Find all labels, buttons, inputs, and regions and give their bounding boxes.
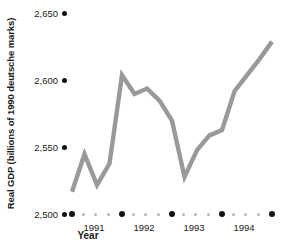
gdp-series-line — [72, 42, 272, 192]
plot-area — [0, 0, 292, 244]
line-chart: Real GDP (billions of 1990 deutsche mark… — [0, 0, 292, 244]
